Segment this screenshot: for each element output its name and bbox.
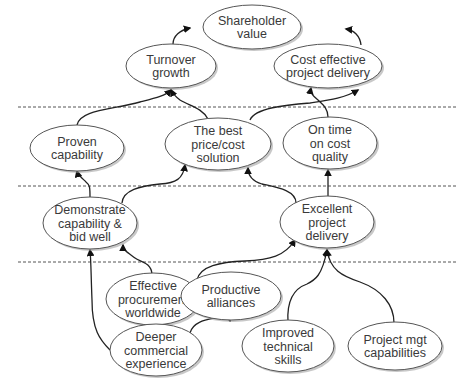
strategy-map-diagram: ShareholdervalueTurnovergrowthCost effec… [0,0,475,387]
node-shareholder: Shareholdervalue [203,5,303,51]
node-label-line: worldwide [124,306,181,320]
node-label-line: skills [274,353,301,367]
node-label-line: bid well [69,230,111,244]
arrow-turnover-to-shareholder [173,28,190,44]
node-label-line: capability & [58,217,123,231]
node-label-line: quality [312,150,349,164]
node-proven: Provencapability [30,125,126,173]
node-deeper: Deepercommercialexperience [110,324,204,378]
node-label-line: project [308,216,346,230]
node-cost-effective: Cost effectiveproject delivery [274,44,384,90]
node-label-line: commercial [124,344,188,358]
arrow-cost_effective-to-shareholder [346,29,361,45]
node-label-line: value [237,27,267,41]
node-label-line: technical [263,340,312,354]
node-label-line: Productive [201,283,260,297]
node-label-line: solution [196,151,239,165]
node-label-line: Effective [129,279,177,293]
node-label-line: delivery [305,229,349,243]
node-label-line: capability [51,148,104,162]
node-label-line: Project mgt [363,333,427,347]
node-label-line: The best [194,124,243,138]
node-label-line: Deeper [136,330,177,344]
node-label-line: growth [152,66,190,80]
arrow-best_price-to-cost_effective [250,90,358,120]
arrow-best_price-to-turnover [171,90,208,119]
node-turnover: Turnovergrowth [126,44,218,90]
node-label-line: Turnover [146,53,196,67]
node-productive: Productivealliances [181,272,283,322]
node-label-line: Cost effective [290,53,366,67]
node-best-price: The bestprice/costsolution [165,118,273,172]
node-label-line: on cost [310,137,351,151]
node-label-line: project delivery [286,66,371,80]
arrow-project_mgt-to-excellent [327,250,394,323]
arrow-effective_proc-to-demonstrate [123,245,152,274]
node-label-line: Shareholder [218,14,286,28]
arrow-improved-to-excellent [288,250,327,322]
node-demonstrate: Demonstratecapability &bid well [43,197,139,251]
node-label-line: On time [308,123,352,137]
node-label-line: capabilities [364,346,426,360]
node-label-line: experience [125,357,186,371]
node-label-line: alliances [207,296,256,310]
node-label-line: procurement [118,293,189,307]
nodes: ShareholdervalueTurnovergrowthCost effec… [30,5,444,378]
node-label-line: Improved [262,326,314,340]
arrow-demonstrate-to-proven [77,171,90,197]
node-label-line: Excellent [302,202,353,216]
node-label-line: Demonstrate [54,203,126,217]
node-project-mgt: Project mgtcapabilities [348,322,444,372]
arrow-demonstrate-to-best_price [122,165,185,203]
node-label-line: Proven [57,135,97,149]
node-improved: Improvedtechnicalskills [242,320,336,374]
node-label-line: price/cost [191,138,245,152]
node-on-time: On timeon costquality [283,117,379,171]
